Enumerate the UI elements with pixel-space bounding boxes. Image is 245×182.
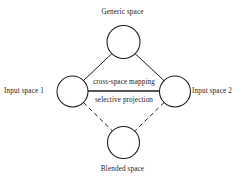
node-generic-space [107,26,140,59]
edge-generic-to-input-space-2 [135,54,164,81]
edge-input-space-2-to-blended-space [135,103,164,131]
label-generic-space: Generic space [0,9,245,16]
edge-generic-to-input-space-1 [84,54,112,81]
label-cross-space-mapping: cross-space mapping [62,79,186,86]
edge-input-space-1-to-blended-space [84,103,113,131]
conceptual-blending-diagram: Generic space Input space 1 Input space … [0,0,245,182]
label-input-space-2: Input space 2 [192,88,244,95]
label-selective-projection: selective projection [62,97,186,104]
node-blended-space [108,127,140,159]
label-input-space-1: Input space 1 [4,88,56,95]
label-blended-space: Blended space [0,166,245,173]
